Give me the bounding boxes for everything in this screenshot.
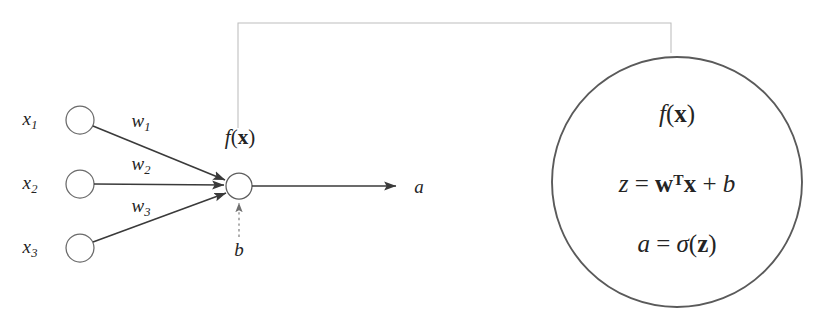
edge-w3 [93, 193, 226, 242]
output-label: a [414, 177, 424, 196]
input-node-x1 [66, 106, 94, 134]
equation-activation: a = σ(z) [637, 231, 716, 256]
neuron-diagram: x1 x2 x3 w1 w2 w3 f(x) b a f(x) z = wTx … [0, 0, 827, 323]
diagram-canvas [0, 0, 827, 323]
input-node-x2 [66, 170, 94, 198]
weight-label-w1: w1 [131, 111, 150, 133]
weight-label-w3: w3 [131, 196, 150, 218]
bias-label: b [234, 240, 244, 259]
input-label-x2: x2 [23, 173, 38, 195]
equation-pre-activation: z = wTx + b [619, 171, 736, 196]
input-node-x3 [66, 234, 94, 262]
neuron-node [226, 173, 252, 199]
neuron-function-label: f(x) [225, 127, 255, 148]
equation-function: f(x) [659, 101, 695, 126]
input-label-x1: x1 [23, 109, 38, 131]
edge-w1 [93, 126, 225, 180]
input-label-x3: x3 [23, 237, 38, 259]
edge-w2 [94, 184, 224, 185]
weight-label-w2: w2 [131, 154, 150, 176]
